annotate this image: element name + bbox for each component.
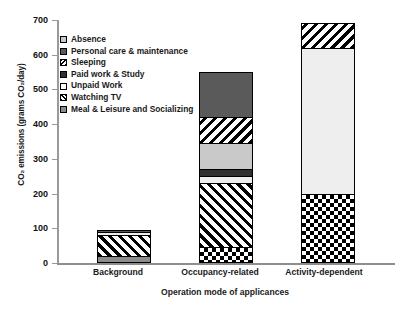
personal-care-swatch-icon <box>60 48 67 55</box>
watching-tv-swatch-icon <box>60 94 67 101</box>
absence-swatch-icon <box>60 36 67 43</box>
bar-background[interactable] <box>97 230 151 263</box>
legend-item-personal-care[interactable]: Personal care & maintenance <box>60 46 193 58</box>
legend-label: Absence <box>71 34 106 46</box>
paid-work-swatch-icon <box>60 71 67 78</box>
y-tick-label: 200 <box>8 189 48 199</box>
bar-segment-sleeping[interactable] <box>199 117 253 143</box>
y-tick-label: 500 <box>8 84 48 94</box>
bar-activity-dependent[interactable] <box>301 23 355 263</box>
y-axis-line <box>57 20 59 263</box>
bar-segment-paid-work[interactable] <box>199 169 253 176</box>
legend-label: Sleeping <box>71 57 106 69</box>
meal-leisure-swatch-icon <box>60 106 67 113</box>
legend-label: Unpaid Work <box>71 80 123 92</box>
bar-segment-watching-tv[interactable] <box>97 235 151 256</box>
y-tick <box>52 20 57 21</box>
y-tick <box>52 89 57 90</box>
bar-occupancy-related[interactable] <box>199 72 253 263</box>
legend-label: Paid work & Study <box>71 69 145 81</box>
y-tick <box>52 159 57 160</box>
x-axis-line <box>57 263 395 265</box>
plot-area: Absence Personal care & maintenance Slee… <box>57 20 395 263</box>
bar-segment-unpaid-work[interactable] <box>199 176 253 183</box>
legend-item-unpaid-work[interactable]: Unpaid Work <box>60 80 193 92</box>
sleeping-swatch-icon <box>60 59 67 66</box>
bar-segment-meal-leisure[interactable] <box>199 247 253 263</box>
y-tick <box>52 228 57 229</box>
y-tick-label: 700 <box>8 15 48 25</box>
legend-label: Watching TV <box>71 92 121 104</box>
legend-label: Meal & Leisure and Socializing <box>71 104 193 116</box>
legend-label: Personal care & maintenance <box>71 46 188 58</box>
bar-segment-absence[interactable] <box>199 143 253 169</box>
x-axis-title: Operation mode of applicances <box>55 287 395 297</box>
legend-item-absence[interactable]: Absence <box>60 34 193 46</box>
chart-figure: CO₂ emissions (grams CO₂/day) 700 600 50… <box>0 0 401 309</box>
x-tick-label-occupancy-related: Occupancy-related <box>160 267 280 277</box>
y-tick-label: 100 <box>8 223 48 233</box>
bar-segment-meal-leisure[interactable] <box>301 194 355 263</box>
legend-item-meal-leisure[interactable]: Meal & Leisure and Socializing <box>60 104 193 116</box>
bar-segment-unpaid-work[interactable] <box>301 48 355 194</box>
chart-legend: Absence Personal care & maintenance Slee… <box>60 34 193 115</box>
legend-item-sleeping[interactable]: Sleeping <box>60 57 193 69</box>
legend-item-paid-work[interactable]: Paid work & Study <box>60 69 193 81</box>
bar-segment-meal-leisure[interactable] <box>97 256 151 263</box>
y-tick <box>52 124 57 125</box>
x-tick-label-activity-dependent: Activity-dependent <box>263 267 385 277</box>
bar-segment-sleeping[interactable] <box>301 23 355 48</box>
bar-segment-watching-tv[interactable] <box>199 183 253 247</box>
y-tick <box>52 263 57 264</box>
y-tick-label: 600 <box>8 50 48 60</box>
y-tick-label: 400 <box>8 119 48 129</box>
y-axis-tick-labels: 700 600 500 400 300 200 100 0 <box>8 20 48 263</box>
bar-segment-unpaid-work[interactable] <box>97 232 151 236</box>
y-tick-label: 300 <box>8 154 48 164</box>
y-tick <box>52 194 57 195</box>
y-tick-label: 0 <box>8 258 48 268</box>
bar-segment-personal-care[interactable] <box>199 72 253 117</box>
y-tick <box>52 55 57 56</box>
bar-segment-personal-care[interactable] <box>97 230 151 232</box>
legend-item-watching-tv[interactable]: Watching TV <box>60 92 193 104</box>
unpaid-work-swatch-icon <box>60 83 67 90</box>
